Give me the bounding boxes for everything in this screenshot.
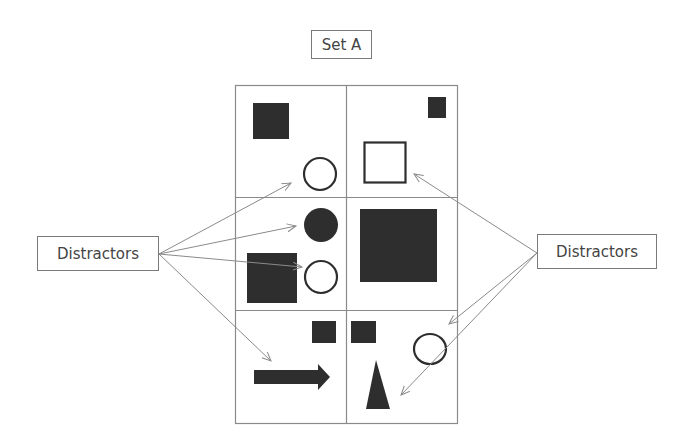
cell-r1-c1 xyxy=(360,209,437,282)
arrow-to-r0c0-circle xyxy=(159,183,291,254)
small-filled-square-shape xyxy=(428,97,446,118)
cell-r2-c0 xyxy=(254,321,336,390)
arrow-to-r1c0-filled-circle xyxy=(159,226,296,254)
outline-circle-shape xyxy=(305,261,337,293)
cell-r0-c0 xyxy=(253,103,336,190)
filled-square-shape xyxy=(247,253,297,303)
filled-triangle-shape xyxy=(366,360,390,409)
outline-square-shape xyxy=(365,143,406,183)
small-filled-square-shape xyxy=(351,321,376,343)
filled-arrow-shape xyxy=(254,364,330,390)
large-filled-square-shape xyxy=(360,209,437,282)
filled-square-shape xyxy=(253,103,289,139)
left-distractors-label: Distractors xyxy=(37,236,159,271)
outline-circle-shape xyxy=(304,158,336,190)
small-filled-square-shape xyxy=(312,321,336,343)
right-distractors-label: Distractors xyxy=(537,234,657,269)
outline-ellipse-shape xyxy=(414,334,446,364)
arrow-to-r2c1-ellipse xyxy=(449,253,537,324)
cell-r2-c1 xyxy=(351,321,446,409)
cell-r0-c1 xyxy=(365,97,447,183)
cell-r1-c0 xyxy=(247,208,338,303)
diagram-canvas xyxy=(0,0,686,441)
filled-circle-shape xyxy=(304,208,338,242)
